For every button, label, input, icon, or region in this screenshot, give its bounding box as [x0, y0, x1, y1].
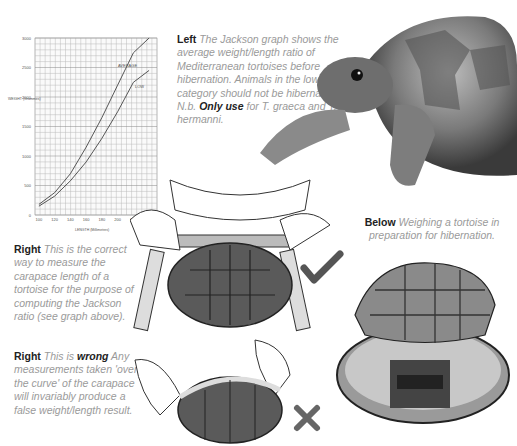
svg-text:3000: 3000: [22, 36, 32, 41]
svg-text:1500: 1500: [22, 124, 32, 129]
svg-text:500: 500: [24, 183, 31, 188]
wrong-measurement-illustration: [130, 335, 310, 445]
average-label: AVERAGE: [118, 63, 137, 68]
tortoise-photo: [255, 5, 517, 195]
y-axis-ticks: 050010001500200025003000: [22, 36, 32, 218]
svg-text:2500: 2500: [22, 65, 32, 70]
svg-text:120: 120: [51, 217, 58, 222]
caption-right-wrong: Right This is wrong Any measurements tak…: [14, 350, 144, 417]
x-axis-ticks: 100120140160180200220: [36, 217, 138, 222]
caption-right-correct: Right This is the correct way to measure…: [14, 243, 144, 323]
svg-text:200: 200: [114, 217, 121, 222]
svg-text:180: 180: [99, 217, 106, 222]
svg-text:1000: 1000: [22, 154, 32, 159]
svg-text:160: 160: [83, 217, 90, 222]
svg-text:140: 140: [67, 217, 74, 222]
y-axis-label: WEIGHT (Grammes): [8, 97, 41, 101]
x-axis-label: LENGTH (Millimetres): [75, 228, 109, 232]
low-label: LOW: [135, 84, 144, 89]
svg-text:0: 0: [29, 213, 32, 218]
cross-mark-icon: [292, 403, 322, 433]
svg-text:100: 100: [36, 217, 43, 222]
weighing-scale-photo: [335, 255, 517, 446]
caption-below: Below Weighing a tortoise in preparation…: [352, 216, 512, 243]
